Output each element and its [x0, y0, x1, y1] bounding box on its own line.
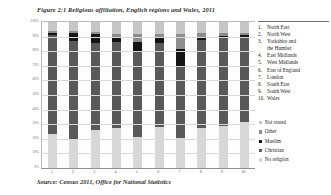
x-axis-tick-labels: 12345678910 [41, 169, 254, 178]
region-list-item: 4.East Midlands [258, 52, 329, 59]
gridline [42, 110, 255, 111]
bar-segment [133, 34, 142, 41]
y-axis-tick-label: 100% [31, 19, 39, 23]
x-axis-tick-label: 5 [126, 169, 147, 178]
bar-segment [112, 22, 121, 34]
region-number: 6. [258, 67, 267, 74]
gridline [42, 124, 255, 125]
bar-segment [197, 22, 206, 33]
gridline [42, 51, 255, 52]
x-axis-tick-label: 9 [211, 169, 232, 178]
gridline [42, 37, 255, 38]
region-name: West Midlands [267, 59, 329, 66]
legend-swatch-icon [259, 140, 262, 143]
plot-area [41, 21, 255, 169]
legend-swatch-icon [259, 130, 262, 133]
y-axis-tick-label: 80% [32, 48, 39, 52]
bar-segment [91, 43, 100, 130]
x-axis-tick-label: 10 [233, 169, 254, 178]
region-list-item: 1.North East [258, 24, 329, 31]
bar-segment [176, 67, 185, 138]
region-list-item: 7.London [258, 74, 329, 81]
bar-segment [91, 130, 100, 168]
region-name: Wales [267, 95, 329, 102]
region-list-item: 5.West Midlands [258, 59, 329, 66]
y-axis-tick-label: 10% [32, 150, 39, 154]
region-number: 10. [258, 95, 267, 102]
bar-segment [219, 126, 228, 168]
y-axis-tick-labels: 100%90%80%70%60%50%40%30%20%10%0% [18, 21, 39, 167]
gridline [42, 80, 255, 81]
bar-segment [133, 42, 142, 52]
bar-segment [197, 40, 206, 127]
bar-segment [176, 22, 185, 34]
region-name: North East [267, 24, 329, 31]
legend-item[interactable]: Not stated [259, 118, 329, 127]
bar-segment [133, 22, 142, 34]
y-axis-tick-label: 0% [34, 165, 39, 169]
legend-item[interactable]: Muslim [259, 137, 329, 146]
region-list-item: 2.North West [258, 31, 329, 38]
y-axis-tick-label: 70% [32, 63, 39, 67]
bar-segment [219, 22, 228, 33]
legend-label: No religion [265, 155, 289, 164]
region-name: East of England [267, 67, 329, 74]
region-list-item: 9.South West [258, 88, 329, 95]
bar-segment [197, 128, 206, 168]
legend-item[interactable]: Christian [259, 146, 329, 155]
legend-item[interactable]: Other [259, 127, 329, 136]
region-number: 9. [258, 88, 267, 95]
gridline [42, 139, 255, 140]
bar-segment [48, 22, 57, 31]
region-name-continued: the Humber [258, 45, 329, 52]
region-number: 3. [258, 38, 267, 45]
legend-label: Christian [265, 146, 284, 155]
y-axis-tick-label: 50% [32, 92, 39, 96]
bar-segment [155, 127, 164, 168]
legend-swatch-icon [259, 121, 262, 124]
bar-segment [112, 128, 121, 168]
region-number: 2. [258, 31, 267, 38]
figure-root: Figure 2:1 Religious affiliation, Englis… [0, 0, 331, 195]
x-axis-tick-label: 2 [62, 169, 83, 178]
region-name: North West [267, 31, 329, 38]
y-axis-tick-label: 30% [32, 121, 39, 125]
legend-swatch-icon [259, 149, 262, 152]
region-name: South East [267, 81, 329, 88]
legend-label: Muslim [265, 137, 281, 146]
series-legend: Not statedOtherMuslimChristianNo religio… [259, 118, 329, 164]
bar-segment [240, 122, 249, 168]
region-name: East Midlands [267, 52, 329, 59]
legend-label: Not stated [265, 118, 286, 127]
bar-segment [91, 22, 100, 31]
y-axis-tick-label: 90% [32, 34, 39, 38]
region-number: 1. [258, 24, 267, 31]
region-list-item: 10.Wales [258, 95, 329, 102]
y-axis-tick-label: 20% [32, 136, 39, 140]
legend-item[interactable]: No religion [259, 155, 329, 164]
y-axis-tick-label: 60% [32, 77, 39, 81]
legend-label: Other [265, 127, 277, 136]
bar-segment [112, 42, 121, 128]
y-axis-tick-label: 40% [32, 107, 39, 111]
x-axis-tick-label: 7 [169, 169, 190, 178]
region-number: 8. [258, 81, 267, 88]
region-list-item: 3.Yorkshire and [258, 38, 329, 45]
legend-swatch-icon [259, 158, 262, 161]
bar-segment [240, 22, 249, 33]
x-axis-tick-label: 8 [190, 169, 211, 178]
x-axis-tick-label: 3 [84, 169, 105, 178]
bar-segment [155, 43, 164, 128]
gridline [42, 66, 255, 67]
region-legend-list: 1.North East2.North West3.Yorkshire andt… [258, 21, 329, 102]
x-axis-tick-label: 1 [41, 169, 62, 178]
region-list-item: 8.South East [258, 81, 329, 88]
x-axis-tick-label: 6 [147, 169, 168, 178]
figure-title: Figure 2:1 Religious affiliation, Englis… [37, 6, 215, 13]
bar-segment [48, 35, 57, 134]
figure-source: Source: Census 2011, Office for National… [37, 178, 171, 185]
region-number: 5. [258, 59, 267, 66]
bar-segment [69, 22, 78, 31]
gridline [42, 153, 255, 154]
region-name: South West [267, 88, 329, 95]
